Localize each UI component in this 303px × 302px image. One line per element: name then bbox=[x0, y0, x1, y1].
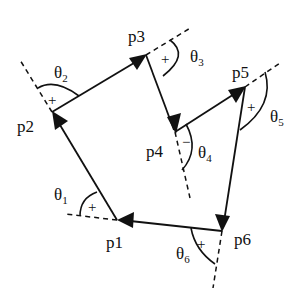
edge-p5-p6 bbox=[223, 87, 245, 228]
ext-p6 bbox=[213, 231, 222, 288]
sign-theta3: + bbox=[161, 51, 169, 67]
label-theta2: θ2 bbox=[54, 63, 68, 84]
ext-p5 bbox=[245, 63, 280, 87]
label-theta3: θ3 bbox=[190, 47, 204, 68]
label-theta4: θ4 bbox=[198, 143, 212, 164]
arrowhead-p1 bbox=[117, 212, 134, 228]
label-theta1: θ1 bbox=[54, 185, 68, 206]
edge-p6-p1 bbox=[121, 220, 222, 231]
sign-theta5: + bbox=[247, 99, 255, 115]
label-p6: p6 bbox=[234, 230, 251, 249]
sign-theta1: + bbox=[88, 199, 96, 215]
label-p5: p5 bbox=[232, 63, 249, 82]
arrowhead-p2 bbox=[52, 111, 68, 130]
edge-p2-p3 bbox=[52, 57, 144, 112]
label-theta6: θ6 bbox=[176, 244, 190, 265]
label-p1: p1 bbox=[106, 233, 123, 252]
label-theta5: θ5 bbox=[270, 107, 284, 128]
sign-theta2: + bbox=[48, 92, 56, 108]
sign-theta4: − bbox=[182, 134, 190, 150]
arrowhead-p3 bbox=[129, 54, 147, 70]
arc-theta2 bbox=[38, 84, 79, 96]
sign-theta6: + bbox=[197, 236, 205, 252]
polygon-diagram: + + + − + + θ1 θ2 θ3 θ4 θ5 θ6 p1 p2 p3 p… bbox=[0, 0, 303, 302]
arrowhead-p6 bbox=[215, 214, 230, 232]
label-p4: p4 bbox=[146, 142, 164, 161]
label-p3: p3 bbox=[128, 27, 145, 46]
label-p2: p2 bbox=[17, 117, 34, 136]
